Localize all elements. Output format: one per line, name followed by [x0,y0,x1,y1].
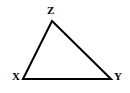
vertex-label-z: Z [47,5,54,16]
triangle-figure: Z X Y [0,0,130,93]
triangle-outline [23,21,111,79]
vertex-label-y: Y [114,71,122,82]
vertex-label-x: X [12,71,20,82]
